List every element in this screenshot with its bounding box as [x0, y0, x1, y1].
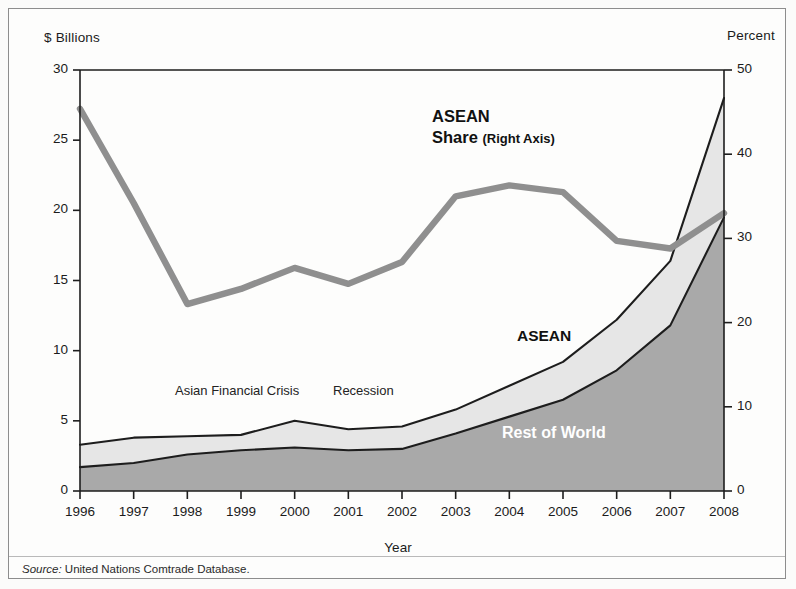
source-note: Source: United Nations Comtrade Database…: [22, 563, 250, 575]
right-axis-caption: Percent: [727, 28, 775, 43]
x-axis-tick-label: 2000: [265, 504, 325, 519]
x-axis-tick-label: 2008: [694, 504, 754, 519]
x-axis-tick-label: 2006: [587, 504, 647, 519]
x-axis-tick-label: 2001: [318, 504, 378, 519]
right-axis-tick-label: 50: [737, 61, 781, 76]
right-axis-tick-label: 20: [737, 314, 781, 329]
right-axis-tick-label: 0: [737, 482, 781, 497]
left-axis-tick-label: 0: [20, 482, 68, 497]
annotation-asean-share-line3: (Right Axis): [482, 131, 554, 146]
left-axis-tick-label: 5: [20, 412, 68, 427]
x-axis-tick-label: 2007: [640, 504, 700, 519]
annotation-asean-share-line1: ASEAN: [432, 107, 490, 125]
figure-frame: [8, 8, 786, 579]
annotation-asean-share-line2: Share: [432, 128, 478, 146]
annotation-rest-of-world-band: Rest of World: [502, 424, 606, 442]
source-label: Source:: [22, 563, 62, 575]
right-axis-tick-label: 10: [737, 398, 781, 413]
x-axis-tick-label: 2002: [372, 504, 432, 519]
right-axis-tick-label: 40: [737, 145, 781, 160]
figure-page: $ Billions Percent 051015202530 01020304…: [0, 0, 796, 589]
annotation-asean-band: ASEAN: [517, 327, 571, 345]
x-axis-tick-label: 1996: [50, 504, 110, 519]
x-axis-tick-label: 1997: [104, 504, 164, 519]
left-axis-caption: $ Billions: [44, 30, 100, 45]
x-axis-tick-label: 2005: [533, 504, 593, 519]
x-axis-title: Year: [0, 540, 796, 555]
left-axis-tick-label: 25: [20, 131, 68, 146]
left-axis-tick-label: 20: [20, 201, 68, 216]
annotation-recession: Recession: [333, 383, 394, 398]
annotation-asian-financial-crisis: Asian Financial Crisis: [175, 383, 299, 398]
left-axis-tick-label: 15: [20, 272, 68, 287]
x-axis-tick-label: 1999: [211, 504, 271, 519]
x-axis-tick-label: 1998: [157, 504, 217, 519]
x-axis-tick-label: 2004: [479, 504, 539, 519]
right-axis-tick-label: 30: [737, 229, 781, 244]
x-axis-tick-label: 2003: [426, 504, 486, 519]
source-value: United Nations Comtrade Database.: [65, 563, 250, 575]
left-axis-tick-label: 30: [20, 61, 68, 76]
annotation-asean-share: ASEAN Share (Right Axis): [432, 106, 555, 148]
source-divider: [9, 556, 785, 557]
left-axis-tick-label: 10: [20, 342, 68, 357]
